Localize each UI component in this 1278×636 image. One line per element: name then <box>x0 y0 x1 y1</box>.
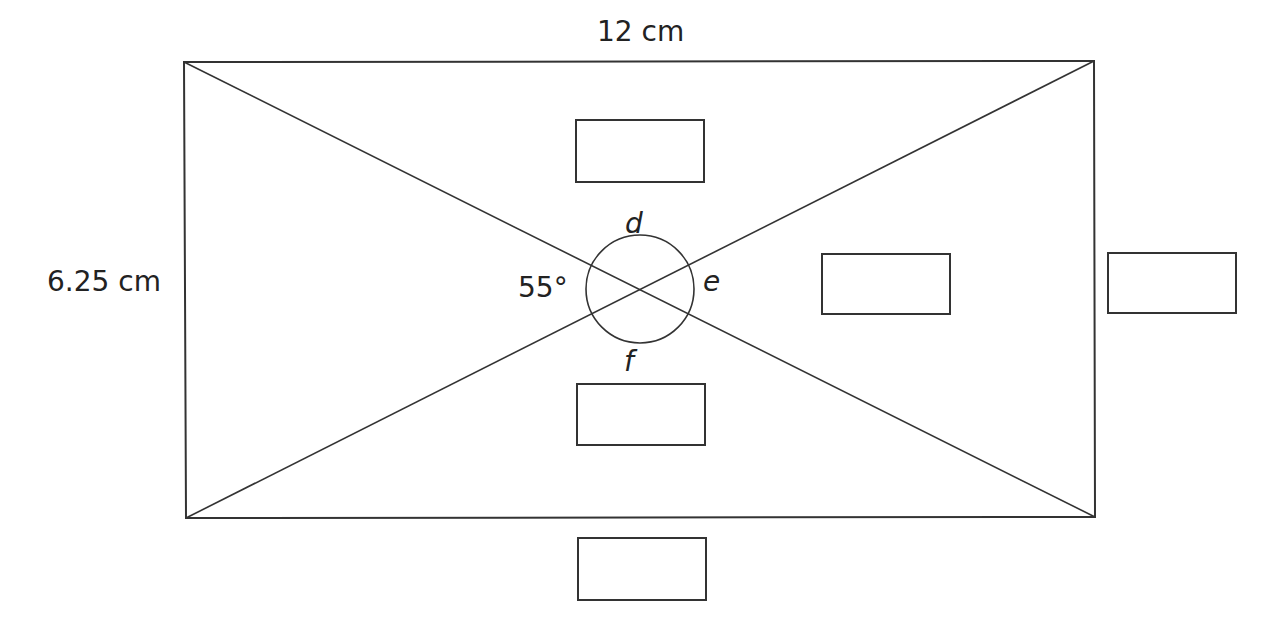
angle-55-label: 55° <box>518 274 568 302</box>
answer-box-bottom-inner[interactable] <box>576 383 706 446</box>
answer-box-bottom-outer[interactable] <box>577 537 707 601</box>
angle-d-label: d <box>625 210 643 238</box>
width-label: 12 cm <box>597 18 684 46</box>
answer-box-top[interactable] <box>575 119 705 183</box>
height-label: 6.25 cm <box>47 268 161 296</box>
angle-f-label: f <box>624 348 634 376</box>
answer-box-right-outer[interactable] <box>1107 252 1237 314</box>
answer-box-right-inner[interactable] <box>821 253 951 315</box>
angle-e-label: e <box>703 268 720 296</box>
